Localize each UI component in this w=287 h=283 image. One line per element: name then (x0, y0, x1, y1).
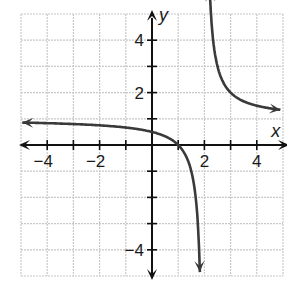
axes (19, 10, 287, 280)
x-tick-label: 2 (200, 152, 209, 171)
x-axis-label: x (270, 121, 281, 141)
function-graph: −4−22442−4 x y (0, 0, 287, 283)
y-tick-label: −4 (125, 241, 144, 260)
x-tick-label: −2 (86, 152, 105, 171)
right-branch (210, 0, 281, 110)
y-tick-label: 4 (135, 31, 144, 50)
x-tick-label: 4 (252, 152, 261, 171)
y-axis-label: y (157, 5, 169, 25)
x-tick-label: −4 (34, 152, 53, 171)
y-tick-label: 2 (135, 84, 144, 103)
